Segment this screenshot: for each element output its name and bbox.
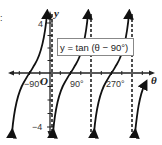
x-tick-label-270: 270° bbox=[106, 79, 125, 89]
y-tick-label-neg4: −4 bbox=[32, 122, 42, 132]
x-tick-label-neg90: −90° bbox=[24, 79, 43, 89]
asymptotes bbox=[52, 14, 132, 135]
x-tick-label-90: 90° bbox=[70, 79, 84, 89]
y-axis-label: y bbox=[52, 7, 59, 19]
function-label: y = tan (θ − 90°) bbox=[60, 42, 128, 53]
x-axis-label: θ bbox=[151, 74, 157, 86]
function-label-box: y = tan (θ − 90°) bbox=[58, 39, 134, 56]
y-tick-label-4: 4 bbox=[38, 19, 43, 29]
corner-mark: : bbox=[0, 13, 3, 23]
tangent-graph: : bbox=[0, 0, 162, 145]
